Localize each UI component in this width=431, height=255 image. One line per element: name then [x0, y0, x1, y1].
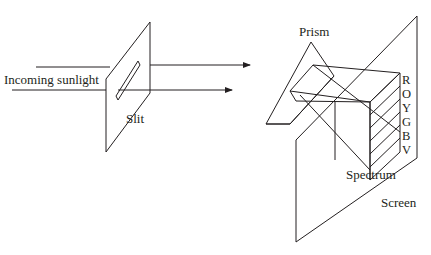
- spectrum-band: [370, 73, 400, 180]
- slit-opening: [116, 61, 140, 100]
- diagram-canvas: Incoming sunlight Slit Prism Spectrum Sc…: [0, 0, 431, 255]
- color-label-blue: B: [402, 129, 410, 143]
- spectrum-band-line: [370, 86, 400, 115]
- beam-edge: [290, 91, 296, 101]
- spectrum-band-line: [370, 112, 400, 141]
- spectrum-band-line: [370, 99, 400, 128]
- beam-top-face: [290, 65, 400, 102]
- spectrum-band-line: [370, 125, 400, 154]
- color-label-orange: O: [402, 87, 411, 101]
- label-screen: Screen: [381, 195, 417, 210]
- color-label-red: R: [402, 73, 411, 87]
- color-label-green: G: [402, 115, 411, 129]
- color-label-violet: V: [402, 143, 411, 157]
- label-spectrum: Spectrum: [346, 167, 396, 182]
- slit-plate: [106, 22, 150, 152]
- label-slit: Slit: [126, 111, 144, 126]
- spectrum-band-line: [370, 138, 400, 167]
- slit-plate-outline: [106, 22, 150, 152]
- prism-dispersion-diagram: Incoming sunlight Slit Prism Spectrum Sc…: [0, 0, 431, 255]
- label-prism: Prism: [299, 24, 329, 39]
- spectrum-color-labels: R O Y G B V: [402, 73, 411, 157]
- beam-bottom-edge: [296, 101, 370, 102]
- color-label-yellow: Y: [402, 101, 411, 115]
- label-incoming-sunlight: Incoming sunlight: [4, 72, 99, 87]
